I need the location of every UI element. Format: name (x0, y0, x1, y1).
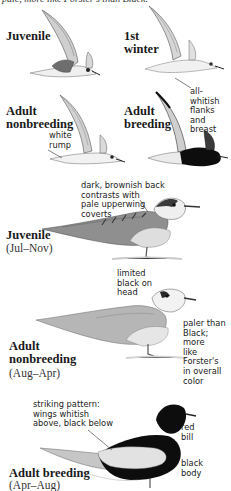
leader-line-flanks (175, 78, 195, 90)
note-paler-than-black: paler than Black; more like Forster's in… (183, 319, 231, 386)
season-standing-adult-nonbreeding: (Aug–Apr) (9, 367, 60, 379)
bird-flight-1st-winter (145, 6, 225, 78)
top-caption: pale, more like Forster's than Black. (2, 0, 148, 4)
note-red-bill: red bill (181, 423, 195, 442)
label-standing-juvenile: Juvenile (6, 229, 50, 242)
note-white-rump: white rump (49, 131, 72, 150)
label-standing-adult-nonbreeding: Adult nonbreeding (9, 340, 76, 366)
bird-flight-juvenile (30, 10, 100, 85)
bird-standing-juvenile (42, 185, 202, 260)
bird-flight-adult-breeding (148, 92, 228, 172)
leader-line-rump (48, 150, 68, 160)
note-black-body: black body (181, 459, 203, 478)
season-standing-juvenile: (Jul–Nov) (6, 242, 53, 254)
season-standing-adult-breeding: (Apr–Aug) (9, 479, 60, 491)
